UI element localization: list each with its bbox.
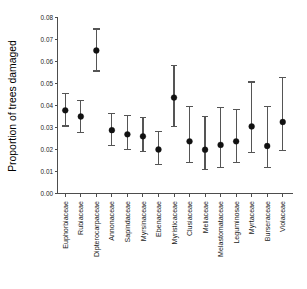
y-axis-tick-label: 0.03 [41, 124, 54, 131]
x-axis-tick-label: Leguminosae [233, 201, 241, 244]
data-point-marker [109, 127, 115, 133]
x-axis: EuphorbiaceaeRubiaceaeDipterocarpaceaeAn… [58, 194, 293, 258]
data-point-group [186, 106, 193, 162]
data-point-group [77, 101, 84, 133]
x-axis-tick-label: Melastomataceae [217, 201, 225, 257]
data-point-group [140, 118, 147, 152]
data-point-marker [171, 95, 177, 101]
x-axis-tick-label: Clusiaceae [186, 201, 194, 236]
chart-container: Proportion of trees damaged 0.000.010.02… [0, 0, 307, 289]
data-point-group [202, 117, 209, 170]
proportion-of-trees-damaged-chart: Proportion of trees damaged 0.000.010.02… [0, 0, 307, 289]
data-point-marker [62, 107, 68, 113]
data-point-group [108, 113, 115, 145]
data-point-marker [187, 138, 193, 144]
data-point-group [279, 78, 286, 151]
data-point-marker [78, 114, 84, 120]
y-axis-tick-label: 0.00 [41, 190, 54, 197]
y-axis-tick-label: 0.01 [41, 168, 54, 175]
x-axis-tick-label: Euphorbiaceae [62, 201, 70, 249]
data-point-group [264, 106, 271, 167]
y-axis-tick-label: 0.06 [41, 58, 54, 65]
data-point-marker [140, 133, 146, 139]
y-axis: 0.000.010.020.030.040.050.060.070.08 [41, 14, 58, 197]
data-point-group [233, 110, 240, 163]
data-point-group [93, 29, 100, 71]
data-point-marker [202, 147, 208, 153]
x-axis-tick-label: Burseraceae [264, 201, 272, 241]
data-point-group [124, 116, 131, 149]
x-axis-tick-label: Sapindaceae [124, 201, 132, 242]
y-axis-tick-label: 0.05 [41, 80, 54, 87]
data-point-group [155, 131, 162, 164]
data-point-marker [249, 124, 255, 130]
data-point-marker [93, 48, 99, 54]
y-axis-tick-label: 0.02 [41, 146, 54, 153]
x-axis-tick-label: Violaceae [279, 201, 287, 232]
x-axis-tick-label: Rubiaceae [77, 201, 85, 235]
y-axis-title-text: Proportion of trees damaged [7, 40, 18, 172]
data-point-marker [218, 142, 224, 148]
data-point-marker [156, 147, 162, 153]
y-axis-tick-label: 0.04 [41, 102, 54, 109]
data-point-group [248, 82, 255, 152]
y-axis-tick-label: 0.08 [41, 14, 54, 21]
data-point-group [171, 66, 178, 127]
data-point-group [62, 94, 69, 126]
x-axis-tick-label: Annonaceae [108, 201, 116, 241]
y-axis-tick-label: 0.07 [41, 36, 54, 43]
data-point-group [217, 107, 224, 167]
y-axis-title: Proportion of trees damaged [7, 40, 18, 172]
data-point-marker [264, 143, 270, 149]
data-point-marker [125, 131, 131, 137]
data-point-marker [280, 119, 286, 125]
x-axis-tick-label: Ebenaceae [155, 201, 163, 237]
data-series-error-bars [62, 29, 286, 170]
x-axis-tick-label: Dipterocarpaceae [93, 201, 101, 257]
data-point-marker [233, 138, 239, 144]
x-axis-tick-label: Myrsinaceae [140, 201, 148, 241]
x-axis-tick-label: Myristicaceae [171, 201, 179, 244]
x-axis-tick-label: Myrtaceae [248, 201, 256, 234]
x-axis-tick-label: Meliaceae [202, 201, 210, 233]
